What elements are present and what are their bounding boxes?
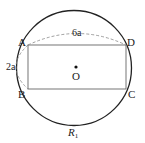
- label-left-length: 2a: [6, 61, 16, 72]
- label-C: C: [128, 88, 135, 100]
- center-point: [74, 65, 77, 68]
- label-O: O: [72, 70, 80, 82]
- label-A: A: [18, 36, 26, 48]
- label-D: D: [127, 36, 135, 48]
- label-radius: R1: [67, 126, 79, 140]
- circle-rectangle-diagram: A D B C O 6a 2a R1: [0, 0, 145, 143]
- label-B: B: [18, 88, 25, 100]
- label-top-length: 6a: [72, 27, 82, 38]
